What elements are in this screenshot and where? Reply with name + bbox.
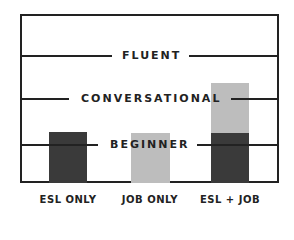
category-esl-only: ESL ONLY (28, 194, 108, 205)
conversational-line-left (20, 98, 69, 100)
beginner-label: BEGINNER (110, 139, 189, 151)
bar-esl-only (49, 132, 87, 183)
fluent-line-right (189, 55, 279, 57)
beginner-line-right (197, 144, 279, 146)
conversational-label: CONVERSATIONAL (81, 93, 221, 105)
category-job-only: JOB ONLY (110, 194, 190, 205)
bar-esl-job-esl-part (211, 133, 249, 183)
beginner-line-left (20, 144, 98, 146)
conversational-line-right (231, 98, 279, 100)
fluent-label: FLUENT (122, 50, 181, 62)
bar-esl-job-job-part (211, 83, 249, 133)
category-esl-job: ESL + JOB (190, 194, 270, 205)
fluent-line-left (20, 55, 112, 57)
